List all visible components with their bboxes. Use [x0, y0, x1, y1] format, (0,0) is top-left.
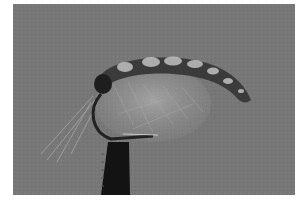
fly-head	[94, 74, 112, 94]
fly-illustration	[13, 4, 295, 195]
fly-photo	[13, 4, 295, 195]
